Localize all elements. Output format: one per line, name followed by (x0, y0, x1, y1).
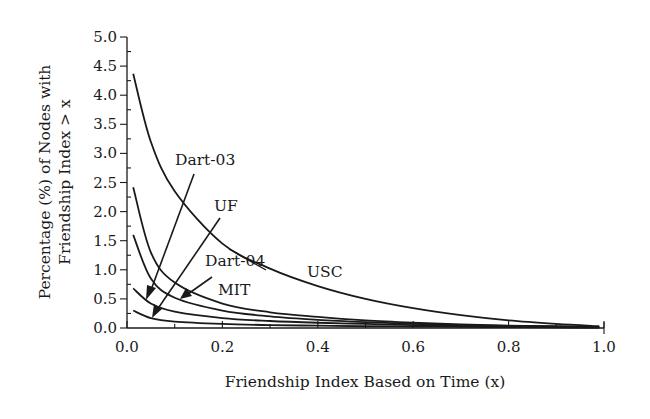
y-tick-label: 0.0 (93, 319, 117, 337)
arrowhead-dart-04 (180, 288, 192, 299)
x-tick-label: 0.2 (210, 338, 234, 356)
plot-curves (133, 74, 599, 328)
y-tick-label: 4.5 (93, 57, 117, 75)
series-line-mit (133, 235, 599, 327)
y-ticks: 0.00.51.01.52.02.53.03.54.04.55.0 (93, 28, 131, 337)
x-tick-label: 0.8 (497, 338, 521, 356)
y-axis-title-line1: Percentage (%) of Nodes with (36, 65, 54, 300)
arrowhead-dart-03 (146, 285, 156, 300)
y-tick-label: 3.0 (93, 144, 117, 162)
label-uf: UF (214, 197, 238, 215)
axes (127, 37, 604, 328)
arrow-dart-04 (188, 277, 212, 294)
y-tick-label: 1.5 (93, 232, 117, 250)
y-tick-label: 0.5 (93, 290, 117, 308)
y-tick-label: 2.0 (93, 203, 117, 221)
series-line-usc (133, 74, 599, 327)
y-tick-label: 3.5 (93, 115, 117, 133)
x-tick-label: 1.0 (592, 338, 616, 356)
x-tick-label: 0.4 (306, 338, 330, 356)
y-tick-label: 4.0 (93, 86, 117, 104)
y-tick-label: 2.5 (93, 174, 117, 192)
x-tick-label: 0.0 (115, 338, 139, 356)
line-chart: 0.00.51.01.52.02.53.03.54.04.55.0 0.00.2… (0, 0, 650, 419)
x-axis-title: Friendship Index Based on Time (x) (225, 373, 506, 391)
label-dart-03: Dart-03 (175, 151, 235, 169)
label-dart-04: Dart-04 (205, 252, 265, 270)
y-tick-label: 5.0 (93, 28, 117, 46)
y-axis-title: Percentage (%) of Nodes with Friendship … (36, 65, 74, 300)
y-axis-title-line2: Friendship Index > x (56, 99, 74, 265)
arrow-dart-03 (151, 174, 194, 290)
x-tick-label: 0.6 (401, 338, 425, 356)
y-tick-label: 1.0 (93, 261, 117, 279)
annotations: Dart-03 UF Dart-04 MIT USC (146, 151, 343, 318)
label-usc: USC (307, 263, 343, 281)
label-mit: MIT (218, 281, 251, 299)
